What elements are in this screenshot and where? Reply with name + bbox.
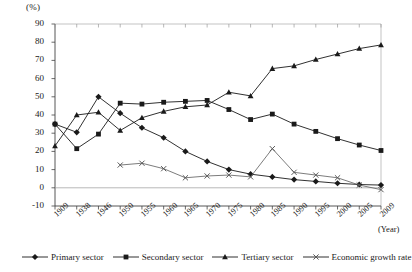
square-marker [123, 255, 128, 260]
data-point-square [292, 122, 297, 127]
legend-marker-diamond [22, 252, 48, 262]
data-point-diamond [32, 254, 38, 260]
y-axis-tick-label: 50 [22, 91, 44, 101]
square-marker [270, 112, 275, 117]
square-marker [313, 129, 318, 134]
legend-marker-triangle [212, 252, 238, 262]
series-tertiary-sector [52, 42, 384, 148]
data-point-diamond [182, 148, 188, 154]
data-point-square [183, 99, 188, 104]
data-point-diamond [74, 129, 80, 135]
legend-item: Primary sector [22, 252, 104, 262]
diamond-marker [74, 129, 80, 135]
data-point-cross [270, 146, 275, 151]
series-economic-growth-rate [118, 146, 384, 192]
legend-marker-cross [303, 252, 329, 262]
y-axis-tick-label: 40 [22, 109, 44, 119]
diamond-marker [313, 178, 319, 184]
y-axis-tick-label: 70 [22, 54, 44, 64]
square-marker [226, 107, 231, 112]
diamond-marker [32, 254, 38, 260]
legend-item: Tertiary sector [212, 252, 293, 262]
data-point-square [313, 129, 318, 134]
y-axis-tick-label: 60 [22, 73, 44, 83]
data-point-square [74, 146, 79, 151]
diamond-marker [139, 125, 145, 131]
legend-item-label: Primary sector [51, 252, 104, 262]
legend-item: Secondary sector [113, 252, 204, 262]
series-secondary-sector [53, 98, 384, 153]
diamond-marker [291, 177, 297, 183]
x-axis-unit-label: (Year) [378, 224, 399, 234]
series-line [55, 100, 381, 150]
data-point-square [96, 132, 101, 137]
square-marker [140, 102, 145, 107]
data-point-square [140, 102, 145, 107]
y-axis-tick-label: 80 [22, 36, 44, 46]
chart-legend: Primary sectorSecondary sectorTertiary s… [22, 252, 392, 262]
data-point-diamond [226, 167, 232, 173]
data-point-triangle [378, 42, 384, 47]
triangle-marker [96, 109, 102, 114]
legend-item: Economic growth rate [303, 252, 412, 262]
square-marker [161, 100, 166, 105]
diamond-marker [182, 148, 188, 154]
triangle-marker [226, 89, 232, 94]
data-point-diamond [291, 177, 297, 183]
square-marker [357, 143, 362, 148]
y-axis-tick-label: 10 [22, 164, 44, 174]
diamond-marker [334, 180, 340, 186]
square-marker [96, 132, 101, 137]
square-marker [379, 148, 384, 153]
y-axis-tick-label: 30 [22, 127, 44, 137]
data-point-square [357, 143, 362, 148]
y-axis-tick-label: -10 [22, 200, 44, 210]
data-point-square [248, 117, 253, 122]
data-point-diamond [139, 125, 145, 131]
y-axis-tick-label: 20 [22, 145, 44, 155]
data-point-square [270, 112, 275, 117]
series-line [55, 45, 381, 146]
series-primary-sector [52, 94, 384, 188]
diamond-marker [204, 158, 210, 164]
data-point-diamond [204, 158, 210, 164]
y-axis-tick-label: 0 [22, 182, 44, 192]
triangle-marker [378, 42, 384, 47]
diamond-marker [161, 135, 167, 141]
data-point-square [335, 136, 340, 141]
square-marker [335, 136, 340, 141]
data-point-diamond [313, 178, 319, 184]
data-point-diamond [334, 180, 340, 186]
square-marker [292, 122, 297, 127]
legend-item-label: Tertiary sector [241, 252, 293, 262]
diamond-marker [269, 174, 275, 180]
data-point-triangle [96, 109, 102, 114]
series-line [55, 97, 381, 185]
data-point-diamond [269, 174, 275, 180]
data-point-square [53, 122, 58, 127]
legend-item-label: Secondary sector [142, 252, 204, 262]
data-point-diamond [161, 135, 167, 141]
data-point-cross [161, 166, 166, 171]
square-marker [74, 146, 79, 151]
square-marker [53, 122, 58, 127]
square-marker [183, 99, 188, 104]
diamond-marker [226, 167, 232, 173]
y-axis-tick-label: 90 [22, 18, 44, 28]
legend-marker-square [113, 252, 139, 262]
data-point-triangle [226, 89, 232, 94]
data-point-square [118, 101, 123, 106]
data-point-square [379, 148, 384, 153]
square-marker [248, 117, 253, 122]
square-marker [118, 101, 123, 106]
data-point-square [123, 255, 128, 260]
data-point-square [226, 107, 231, 112]
legend-item-label: Economic growth rate [332, 252, 412, 262]
data-point-square [161, 100, 166, 105]
